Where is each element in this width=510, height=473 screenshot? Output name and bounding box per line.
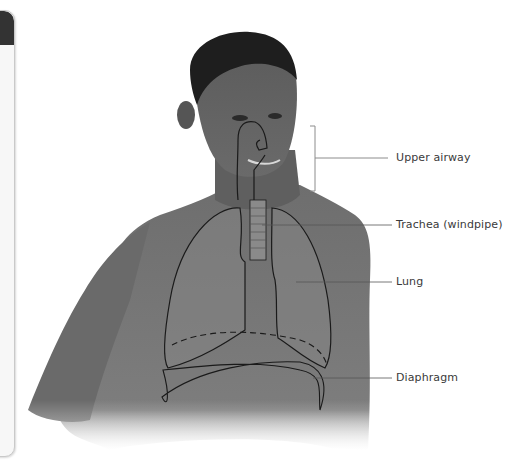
label-diaphragm: Diaphragm	[396, 371, 458, 384]
label-lung: Lung	[396, 275, 423, 288]
head	[177, 32, 297, 177]
trachea	[250, 200, 266, 260]
label-trachea: Trachea (windpipe)	[396, 218, 503, 231]
upper-airway-bracket	[310, 126, 388, 191]
label-upper-airway: Upper airway	[396, 151, 471, 164]
respiratory-diagram	[0, 0, 510, 473]
